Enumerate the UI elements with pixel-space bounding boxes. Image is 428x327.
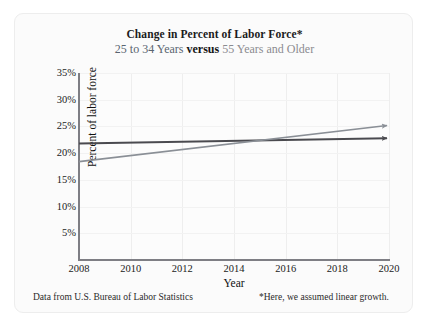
y-tick-label: 5% — [42, 228, 76, 238]
subtitle-segment-versus: versus — [187, 42, 220, 56]
y-tick-label: 30% — [42, 95, 76, 105]
x-tick-label: 2008 — [57, 263, 101, 274]
x-tick-label: 2018 — [315, 263, 359, 274]
chart-title: Change in Percent of Labor Force* — [15, 27, 414, 41]
vertical-gridline — [389, 73, 390, 260]
x-tick-label: 2016 — [264, 263, 308, 274]
x-tick-label: 2012 — [160, 263, 204, 274]
footnote: *Here, we assumed linear growth. — [259, 292, 389, 302]
chart-title-block: Change in Percent of Labor Force* 25 to … — [15, 27, 414, 57]
chart-card: Change in Percent of Labor Force* 25 to … — [14, 13, 413, 313]
chart-subtitle: 25 to 34 Years versus 55 Years and Older — [15, 42, 414, 57]
y-tick-label: 15% — [42, 175, 76, 185]
plot-area: 5%10%15%20%25%30%35% 2008201020122014201… — [79, 73, 389, 260]
series-lines — [79, 73, 389, 260]
subtitle-segment-old: 55 Years and Older — [222, 42, 314, 56]
subtitle-segment-young: 25 to 34 Years — [115, 42, 184, 56]
x-tick-label: 2020 — [367, 263, 411, 274]
y-tick-label: 35% — [42, 68, 76, 78]
x-tick-label: 2014 — [212, 263, 256, 274]
x-axis-title: Year — [79, 277, 389, 289]
x-tick-label: 2010 — [109, 263, 153, 274]
y-tick-label: 10% — [42, 202, 76, 212]
y-tick-label: 25% — [42, 121, 76, 131]
y-tick-label: 20% — [42, 148, 76, 158]
source-note: Data from U.S. Bureau of Labor Statistic… — [33, 292, 193, 302]
